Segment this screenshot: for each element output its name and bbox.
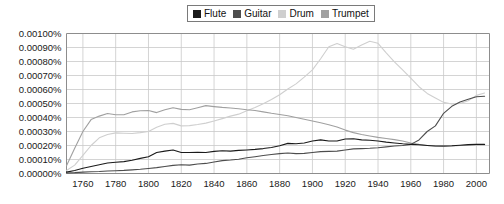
y-axis-tick-label: 0.00080%: [19, 56, 62, 67]
y-axis-tick-label: 0.00100%: [19, 28, 62, 39]
series-line-flute: [67, 139, 485, 172]
y-axis-tick-label: 0.00070%: [19, 70, 62, 81]
x-axis-tick-label: 1860: [236, 178, 257, 189]
x-axis-tick-label: 1980: [433, 178, 454, 189]
y-axis-tick-label: 0.00050%: [19, 98, 62, 109]
ngram-frequency-chart: FluteGuitarDrumTrumpet 0.00100%0.00090%0…: [0, 0, 504, 204]
x-axis-tick-label: 1940: [367, 178, 388, 189]
x-axis-tick-label: 1900: [302, 178, 323, 189]
x-axis-tick-label: 2000: [466, 178, 487, 189]
x-axis-tick-label: 1960: [400, 178, 421, 189]
y-axis-tick-label: 0.00040%: [19, 112, 62, 123]
x-axis-tick-label: 1820: [171, 178, 192, 189]
y-axis-tick-label: 0.00030%: [19, 126, 62, 137]
series-line-guitar: [67, 96, 485, 173]
y-axis-tick-label: 0.00090%: [19, 42, 62, 53]
y-axis-tick-label: 0.00060%: [19, 84, 62, 95]
x-axis-tick-label: 1760: [72, 178, 93, 189]
x-axis-tick-label: 1840: [203, 178, 224, 189]
y-axis-tick-label: 0.00010%: [19, 154, 62, 165]
y-axis-tick-label: 0.00020%: [19, 140, 62, 151]
y-axis-tick-label: 0.00000%: [19, 168, 62, 179]
plot-area: 0.00100%0.00090%0.00080%0.00070%0.00060%…: [0, 0, 504, 204]
series-line-drum: [67, 41, 485, 170]
series-line-trumpet: [67, 106, 485, 166]
x-axis-tick-label: 1880: [269, 178, 290, 189]
x-axis-tick-label: 1800: [138, 178, 159, 189]
x-axis-tick-label: 1780: [105, 178, 126, 189]
x-axis-tick-label: 1920: [335, 178, 356, 189]
